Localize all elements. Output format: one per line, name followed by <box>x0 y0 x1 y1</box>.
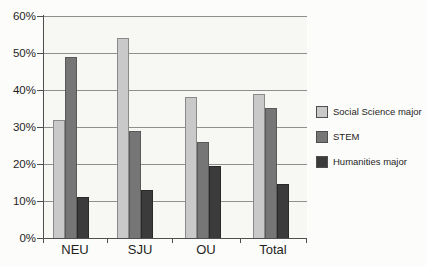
y-tick-20 <box>37 164 43 165</box>
y-tick-label-50: 50% <box>0 46 36 60</box>
bar-sju-stem <box>129 131 141 238</box>
y-tick-40 <box>37 90 43 91</box>
gridline-40 <box>43 90 307 91</box>
legend-label-stem: STEM <box>328 131 359 142</box>
y-tick-label-10: 10% <box>0 194 36 208</box>
x-tick-2 <box>172 239 173 243</box>
legend-swatch-humanities-major <box>316 156 328 168</box>
bar-sju-humanities-major <box>141 190 153 238</box>
x-axis-line <box>43 238 307 239</box>
x-category-label-neu: NEU <box>43 242 107 258</box>
legend-label-social-science-major: Social Science major <box>328 106 422 117</box>
bar-total-social-science-major <box>253 94 265 238</box>
gridline-60 <box>43 16 307 17</box>
bar-neu-stem <box>65 57 77 238</box>
y-tick-label-0: 0% <box>0 231 36 245</box>
bar-ou-stem <box>197 142 209 238</box>
legend-swatch-stem <box>316 131 328 143</box>
legend-item-stem: STEM <box>316 124 422 149</box>
x-category-label-sju: SJU <box>108 242 172 258</box>
bar-total-stem <box>265 108 277 238</box>
bar-ou-humanities-major <box>209 166 221 238</box>
y-tick-label-30: 30% <box>0 120 36 134</box>
bar-neu-social-science-major <box>53 120 65 238</box>
y-tick-label-40: 40% <box>0 83 36 97</box>
y-tick-50 <box>37 53 43 54</box>
legend-label-humanities-major: Humanities major <box>328 156 407 167</box>
y-axis-line <box>43 15 44 239</box>
grouped-bar-chart: Social Science majorSTEMHumanities major… <box>0 0 426 266</box>
bar-total-humanities-major <box>277 184 289 238</box>
y-tick-label-20: 20% <box>0 157 36 171</box>
y-tick-30 <box>37 127 43 128</box>
bar-neu-humanities-major <box>77 197 89 238</box>
legend-item-social-science-major: Social Science major <box>316 99 422 124</box>
gridline-50 <box>43 53 307 54</box>
plot-area <box>43 16 307 238</box>
x-tick-4 <box>306 239 307 243</box>
x-category-label-total: Total <box>241 242 305 258</box>
bar-sju-social-science-major <box>117 38 129 238</box>
legend: Social Science majorSTEMHumanities major <box>316 99 422 174</box>
legend-item-humanities-major: Humanities major <box>316 149 422 174</box>
y-tick-10 <box>37 201 43 202</box>
y-tick-label-60: 60% <box>0 9 36 23</box>
y-tick-60 <box>37 16 43 17</box>
legend-swatch-social-science-major <box>316 106 328 118</box>
bar-ou-social-science-major <box>185 97 197 238</box>
x-category-label-ou: OU <box>174 242 238 258</box>
